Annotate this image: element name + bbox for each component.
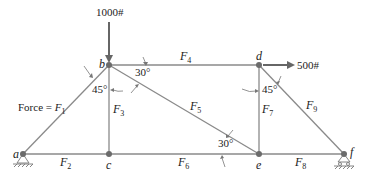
joint-label-e: e [256, 158, 262, 172]
svg-text:F2: F2 [59, 155, 71, 171]
svg-text:F5: F5 [189, 99, 201, 115]
member-label-f4: F4 [179, 49, 191, 65]
joint-e [256, 151, 262, 157]
joint-label-d: d [256, 49, 263, 63]
member-label-f6: F6 [177, 155, 189, 171]
svg-text:F4: F4 [179, 49, 191, 65]
angle-e-30: 30° [218, 137, 233, 149]
member-label-f5: F5 [189, 99, 201, 115]
joint-label-f: f [350, 145, 355, 159]
member-label-f8: F8 [294, 155, 306, 171]
joint-label-a: a [13, 147, 19, 161]
member-label-f1: Force = F1 [18, 101, 65, 116]
angle-d-45: 45° [262, 83, 277, 95]
member-f5 [109, 65, 259, 154]
joint-a [20, 151, 26, 157]
load-500-label: 500# [297, 59, 320, 71]
svg-text:F8: F8 [294, 155, 306, 171]
angle-b-45: 45° [92, 83, 107, 95]
member-label-f3: F3 [112, 102, 124, 118]
svg-text:F9: F9 [305, 98, 317, 114]
members [23, 65, 344, 154]
joint-b [106, 62, 112, 68]
joint-c [106, 151, 112, 157]
member-label-f9: F9 [305, 98, 317, 114]
truss-diagram: 1000# 500# 45° 30° 45° 30° F [0, 0, 366, 181]
angle-b-30: 30° [135, 66, 150, 78]
svg-text:Force = F1: Force = F1 [18, 101, 65, 116]
load-1000-label: 1000# [96, 6, 124, 18]
member-label-f2: F2 [59, 155, 71, 171]
member-label-f7: F7 [261, 102, 273, 118]
joint-f [341, 151, 347, 157]
joint-label-c: c [106, 158, 112, 172]
svg-text:F7: F7 [261, 102, 273, 118]
load-500-arrow [263, 61, 295, 69]
load-1000-arrow [105, 22, 113, 63]
svg-text:F6: F6 [177, 155, 189, 171]
joint-label-b: b [99, 57, 105, 71]
svg-text:F3: F3 [112, 102, 124, 118]
